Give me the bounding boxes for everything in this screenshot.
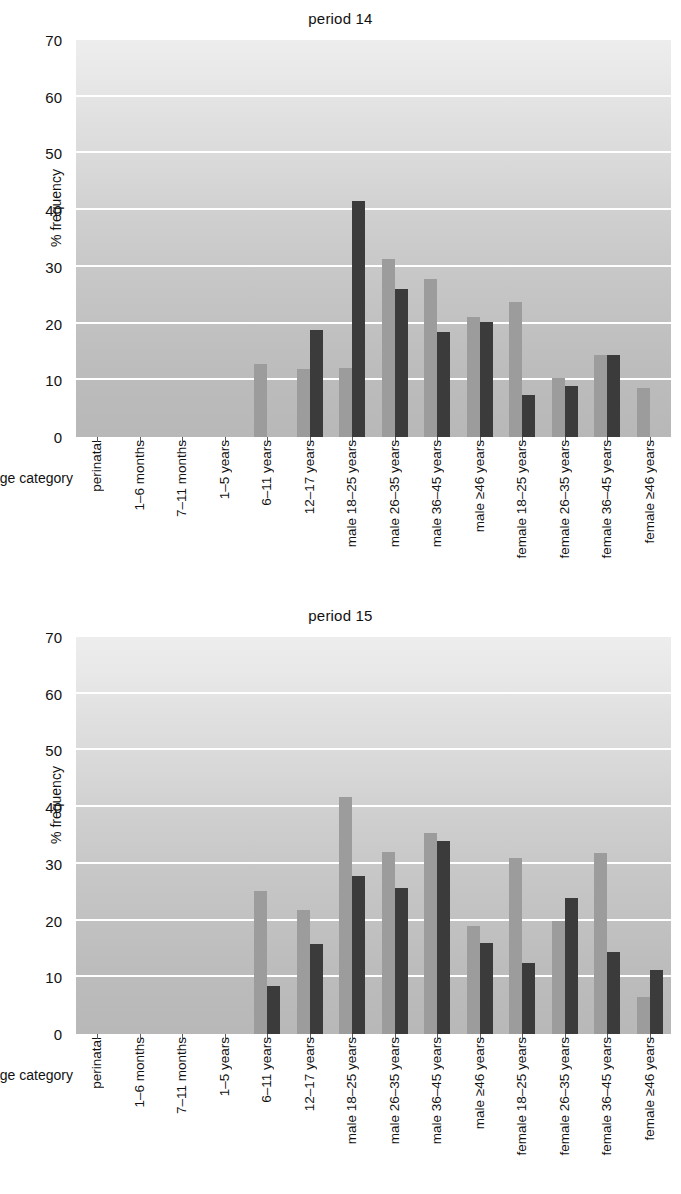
bar-dark[interactable]	[395, 888, 408, 1034]
bar-group	[76, 637, 119, 1034]
x-tick-mark	[310, 437, 311, 442]
x-tick-label: male 18–25 years	[344, 1037, 359, 1144]
bar-group	[544, 637, 587, 1034]
x-axis-ticks-1: perinatal1–6 months7–11 months1–5 years6…	[76, 1037, 671, 1187]
y-tick-label: 10	[45, 372, 62, 389]
x-tick-label: 1–6 months	[132, 440, 147, 511]
bar-group	[629, 40, 672, 437]
x-tick-mark	[225, 437, 226, 442]
x-tick-mark	[182, 1034, 183, 1039]
x-tick-mark	[650, 1034, 651, 1039]
x-tick-mark	[522, 437, 523, 442]
y-tick-label: 70	[45, 32, 62, 49]
bar-group	[374, 637, 417, 1034]
x-tick-mark	[607, 437, 608, 442]
bar-dark[interactable]	[352, 876, 365, 1034]
bar-dark[interactable]	[650, 970, 663, 1034]
bar-light[interactable]	[297, 910, 310, 1034]
y-tick-label: 60	[45, 685, 62, 702]
bar-light[interactable]	[509, 302, 522, 437]
bar-group	[629, 637, 672, 1034]
bar-light[interactable]	[552, 378, 565, 437]
bar-dark[interactable]	[437, 841, 450, 1034]
bar-light[interactable]	[637, 388, 650, 437]
chart-title: period 14	[0, 10, 681, 27]
bar-dark[interactable]	[310, 330, 323, 437]
bar-light[interactable]	[594, 355, 607, 437]
bar-group	[586, 637, 629, 1034]
x-tick-mark	[352, 1034, 353, 1039]
bar-dark[interactable]	[607, 952, 620, 1034]
bar-group	[374, 40, 417, 437]
bar-group	[331, 637, 374, 1034]
x-tick-label: 6–11 years	[259, 1037, 274, 1103]
x-tick-label: male 36–45 years	[429, 440, 444, 547]
x-tick-label: perinatal	[89, 1037, 104, 1089]
bar-group	[416, 40, 459, 437]
bar-group	[416, 637, 459, 1034]
bar-light[interactable]	[254, 891, 267, 1034]
x-tick-mark	[97, 437, 98, 442]
x-tick-label: 7–11 months	[174, 1037, 189, 1114]
bar-light[interactable]	[254, 364, 267, 437]
bar-dark[interactable]	[522, 395, 535, 437]
x-tick-label: female 36–45 years	[599, 1037, 614, 1156]
bar-group	[246, 637, 289, 1034]
bar-light[interactable]	[594, 853, 607, 1034]
x-tick-mark	[182, 437, 183, 442]
bar-series-0	[76, 40, 671, 437]
bar-dark[interactable]	[267, 986, 280, 1034]
bar-dark[interactable]	[565, 898, 578, 1034]
x-tick-label: 12–17 years	[302, 440, 317, 514]
bar-light[interactable]	[424, 833, 437, 1034]
bar-dark[interactable]	[607, 355, 620, 437]
bar-group	[501, 637, 544, 1034]
bar-light[interactable]	[467, 317, 480, 437]
x-tick-label: male 36–45 years	[429, 1037, 444, 1144]
y-axis-label: % frequency	[48, 745, 64, 865]
bar-dark[interactable]	[480, 322, 493, 437]
bar-light[interactable]	[339, 797, 352, 1034]
x-tick-label: 6–11 years	[259, 440, 274, 506]
x-tick-label: female 36–45 years	[599, 440, 614, 559]
bar-light[interactable]	[552, 921, 565, 1034]
bar-dark[interactable]	[395, 289, 408, 437]
bar-group	[76, 40, 119, 437]
chart-panel-period-15: period 15 706050403020100 % frequency pe…	[0, 597, 681, 1194]
bar-dark[interactable]	[437, 332, 450, 437]
chart-title: period 15	[0, 607, 681, 624]
bar-dark[interactable]	[565, 386, 578, 437]
x-tick-label: 1–6 months	[132, 1037, 147, 1108]
bar-group	[204, 40, 247, 437]
x-tick-mark	[607, 1034, 608, 1039]
bar-group	[161, 637, 204, 1034]
bar-dark[interactable]	[352, 201, 365, 437]
bar-light[interactable]	[467, 926, 480, 1034]
bar-dark[interactable]	[522, 963, 535, 1034]
x-tick-label: female 18–25 years	[514, 1037, 529, 1156]
bar-light[interactable]	[637, 997, 650, 1034]
bar-light[interactable]	[424, 279, 437, 437]
bar-group	[204, 637, 247, 1034]
bar-dark[interactable]	[480, 943, 493, 1034]
x-tick-mark	[395, 1034, 396, 1039]
x-tick-label: male 26–35 years	[387, 440, 402, 547]
bar-light[interactable]	[382, 852, 395, 1034]
x-tick-mark	[437, 1034, 438, 1039]
y-tick-label: 20	[45, 912, 62, 929]
x-tick-mark	[395, 437, 396, 442]
x-axis-label: age category	[0, 1067, 73, 1083]
x-tick-label: female 18–25 years	[514, 440, 529, 559]
bar-light[interactable]	[297, 369, 310, 437]
x-axis-ticks-0: perinatal1–6 months7–11 months1–5 years6…	[76, 440, 671, 590]
bar-light[interactable]	[382, 259, 395, 437]
bar-group	[331, 40, 374, 437]
x-tick-mark	[310, 1034, 311, 1039]
x-tick-mark	[140, 437, 141, 442]
bar-light[interactable]	[509, 858, 522, 1034]
bar-light[interactable]	[339, 368, 352, 437]
y-tick-label: 10	[45, 969, 62, 986]
bar-dark[interactable]	[310, 944, 323, 1034]
x-tick-mark	[97, 1034, 98, 1039]
x-tick-mark	[650, 437, 651, 442]
